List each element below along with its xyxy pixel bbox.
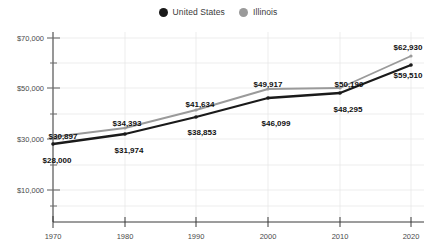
x-tick-label: 2010 <box>332 232 349 241</box>
data-label-illinois-1970: $30,897 <box>49 132 78 141</box>
x-tick-label: 1990 <box>188 232 205 241</box>
horizontal-gridlines <box>53 38 424 206</box>
data-label-united-states-2020: $59,510 <box>394 71 423 80</box>
x-tick-label: 2000 <box>260 232 277 241</box>
y-tick-label: $70,000 <box>17 34 44 43</box>
y-tick-label: $50,000 <box>17 84 44 93</box>
line-chart: United States Illinois <box>0 0 436 252</box>
series-markers-illinois <box>51 54 412 138</box>
data-label-united-states-1980: $31,974 <box>115 146 144 155</box>
data-label-united-states-1990: $38,853 <box>188 128 217 137</box>
plot-area: $70,000 $50,000 $30,000 $10,000 1970 198… <box>0 0 436 252</box>
x-tick-label: 2020 <box>403 232 420 241</box>
x-tick-label: 1970 <box>45 232 62 241</box>
data-label-illinois-2010: $50,199 <box>335 80 364 89</box>
y-tick-label: $10,000 <box>17 186 44 195</box>
data-label-united-states-2010: $48,295 <box>334 105 363 114</box>
data-label-united-states-1970: $28,000 <box>43 156 72 165</box>
data-label-united-states-2000: $46,099 <box>262 119 291 128</box>
data-label-illinois-1980: $34,393 <box>113 119 142 128</box>
data-label-illinois-1990: $41,634 <box>186 100 215 109</box>
x-tick-label: 1980 <box>117 232 134 241</box>
series-line-illinois <box>53 56 411 137</box>
data-label-illinois-2000: $49,917 <box>254 80 283 89</box>
y-tick-label: $30,000 <box>17 135 44 144</box>
data-label-illinois-2020: $62,930 <box>394 43 423 52</box>
